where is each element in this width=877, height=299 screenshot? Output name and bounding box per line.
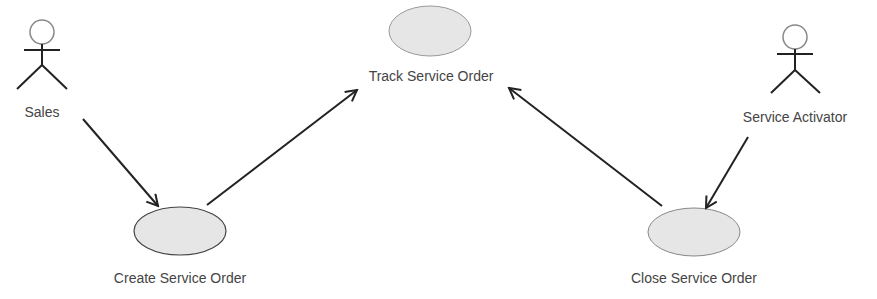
use-case-label-track: Track Service Order: [369, 68, 494, 84]
actor-right-leg: [795, 70, 820, 93]
arrow-create-to-track: [207, 90, 357, 205]
arrow-close-to-track: [509, 88, 662, 206]
use-case-create-ellipse[interactable]: [134, 207, 226, 255]
arrow-sales-to-create: [83, 119, 158, 206]
actor-left-leg: [771, 70, 795, 93]
use-case-track-ellipse[interactable]: [389, 6, 471, 56]
actor-sales[interactable]: [17, 20, 67, 89]
actor-head-icon: [783, 25, 807, 49]
actor-left-leg: [17, 65, 42, 89]
use-case-close-ellipse[interactable]: [648, 208, 740, 256]
use-case-label-create: Create Service Order: [114, 270, 246, 286]
actor-service-activator[interactable]: [771, 25, 820, 93]
actor-label-sales: Sales: [24, 104, 59, 120]
arrow-activator-to-close: [706, 137, 748, 208]
diagram-canvas: [0, 0, 877, 299]
actor-label-service-activator: Service Activator: [743, 109, 847, 125]
actor-right-leg: [42, 65, 67, 89]
actor-head-icon: [30, 20, 54, 44]
use-case-label-close: Close Service Order: [631, 270, 757, 286]
